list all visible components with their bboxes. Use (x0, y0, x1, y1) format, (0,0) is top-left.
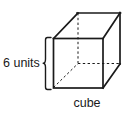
dimension-brace (43, 38, 51, 90)
dimension-label: 6 units (0, 54, 44, 72)
edge-bottom-right-diagonal (103, 64, 120, 88)
hidden-edges-group (54, 13, 121, 88)
brace-path (43, 38, 51, 90)
shape-name-label: cube (58, 95, 116, 111)
hidden-edge-bottom-left-diagonal (54, 64, 79, 88)
edge-top-right-diagonal (103, 13, 120, 39)
cube-figure: 6 units cube (0, 0, 132, 115)
visible-edges-group (54, 13, 121, 89)
edge-top-left-diagonal (54, 13, 79, 39)
